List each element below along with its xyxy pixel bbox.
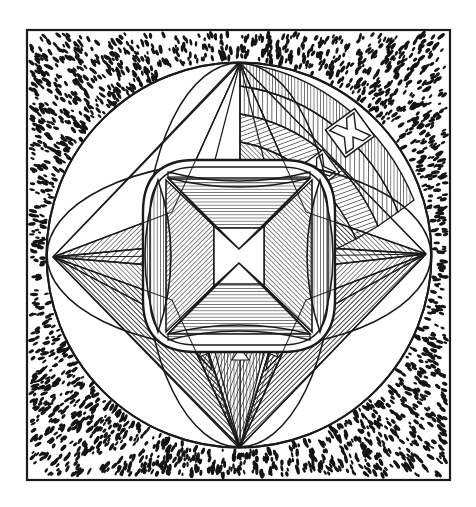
engraving-plate: Four-pointed star rosette inscribed in a…	[0, 0, 476, 507]
central-boss	[143, 160, 335, 352]
rosette-figure: Four-pointed star rosette inscribed in a…	[0, 0, 476, 507]
